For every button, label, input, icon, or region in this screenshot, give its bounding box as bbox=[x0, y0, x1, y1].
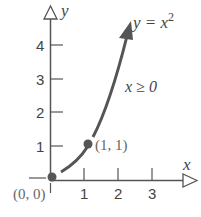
y-tick-1: 1 bbox=[36, 138, 44, 155]
point-origin bbox=[48, 173, 57, 182]
point-1-1-label: (1, 1) bbox=[95, 137, 128, 154]
domain-label: x ≥ 0 bbox=[124, 78, 157, 95]
y-tick-3: 3 bbox=[36, 71, 44, 88]
curve-arrow-icon bbox=[119, 21, 133, 40]
y-tick-4: 4 bbox=[36, 37, 44, 54]
y-axis-arrow-icon bbox=[44, 6, 57, 19]
y-axis-label: y bbox=[59, 1, 69, 20]
equation-label: y = x2 bbox=[131, 10, 174, 32]
point-1-1 bbox=[84, 140, 93, 149]
x-tick-1: 1 bbox=[80, 185, 88, 202]
x-tick-2: 2 bbox=[114, 185, 122, 202]
y-ticks bbox=[50, 45, 63, 146]
y-tick-2: 2 bbox=[36, 104, 44, 121]
x-axis-label: x bbox=[182, 155, 191, 174]
origin-label: (0, 0) bbox=[13, 186, 46, 203]
x-tick-3: 3 bbox=[148, 185, 156, 202]
x-ticks bbox=[84, 168, 152, 180]
curve-segment-upper bbox=[93, 36, 127, 137]
x-axis-arrow-icon bbox=[183, 174, 197, 187]
chart: y x 4 3 2 1 1 2 3 (0, 0) (1, 1) y = x2 x… bbox=[0, 0, 201, 217]
